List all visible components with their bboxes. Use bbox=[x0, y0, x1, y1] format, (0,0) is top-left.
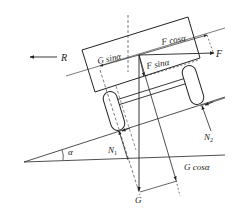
incline-line bbox=[24, 97, 225, 162]
g-cos-arrow bbox=[139, 55, 176, 180]
g-cos-dashed bbox=[176, 180, 180, 196]
label-r: R bbox=[60, 52, 67, 63]
n2-arrow bbox=[202, 106, 211, 131]
label-g-cos: G cosα bbox=[184, 162, 210, 172]
n1-arrow bbox=[119, 131, 128, 160]
label-g: G bbox=[135, 195, 142, 205]
label-n2: N2 bbox=[203, 132, 213, 143]
g-triangle-base bbox=[140, 181, 177, 192]
label-f-cos: F cosα bbox=[160, 33, 187, 47]
label-n1: N1 bbox=[107, 145, 117, 156]
force-diagram: R F F cosα F sinα G sinα G cosα G α N1 N… bbox=[0, 0, 233, 212]
front-wheel bbox=[180, 64, 205, 106]
f-arrow bbox=[139, 53, 214, 55]
f-dashed-connector bbox=[207, 35, 213, 52]
alpha-arc bbox=[62, 150, 63, 160]
rear-wheel bbox=[101, 90, 126, 132]
f-line-axis bbox=[66, 28, 225, 76]
ground-line bbox=[24, 155, 225, 162]
label-alpha: α bbox=[68, 147, 73, 157]
label-f: F bbox=[215, 48, 223, 59]
